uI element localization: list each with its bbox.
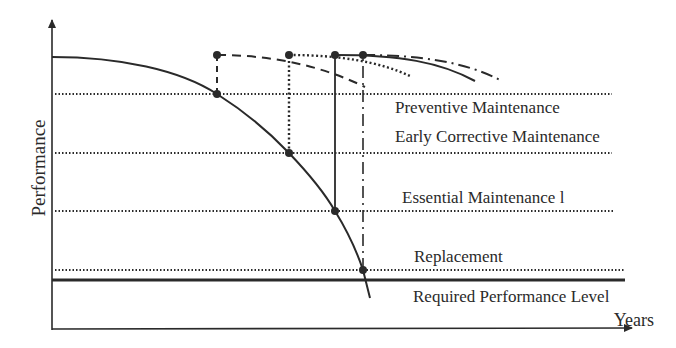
y-axis-label: Performance	[28, 119, 49, 216]
x-axis-label: Years	[614, 310, 654, 330]
essential-label: Essential Maintenance l	[402, 188, 565, 207]
maintenance-diagram: Performance Years Preventive Maintenance…	[0, 0, 676, 348]
replacement-curve	[363, 55, 500, 80]
early-corrective-label: Early Corrective Maintenance	[395, 127, 600, 146]
replacement-label: Replacement	[414, 247, 503, 266]
x-axis	[52, 328, 632, 329]
preventive-label: Preventive Maintenance	[395, 98, 560, 117]
preventive-curve	[217, 55, 365, 87]
required-level-label: Required Performance Level	[413, 287, 610, 306]
essential-curve	[335, 55, 475, 81]
